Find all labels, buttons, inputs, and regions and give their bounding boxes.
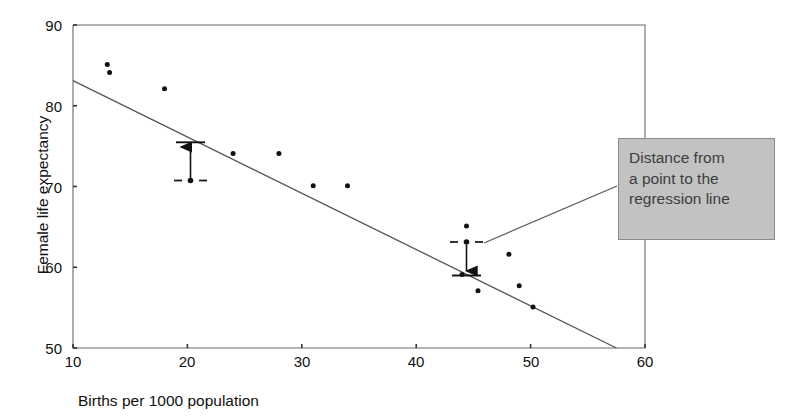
data-point — [476, 288, 481, 293]
x-axis-title: Births per 1000 population — [78, 392, 259, 410]
x-tick-label-10: 10 — [53, 353, 93, 370]
data-point — [464, 224, 469, 229]
data-point — [531, 304, 536, 309]
data-point — [517, 283, 522, 288]
y-axis-title: Female life expectancy — [34, 80, 52, 310]
data-point — [506, 252, 511, 257]
callout-leader-line — [484, 186, 617, 243]
x-tick-label-30: 30 — [282, 353, 322, 370]
data-point — [162, 86, 167, 91]
data-points — [105, 62, 536, 309]
x-tick-label-60: 60 — [625, 353, 665, 370]
plot-frame — [73, 25, 645, 348]
y-tick-label-90: 90 — [28, 17, 62, 34]
residual-arrow-down-group — [450, 239, 483, 275]
chart-canvas: 90 80 70 60 50 10 20 30 40 50 60 Female … — [0, 0, 785, 419]
callout-text: Distance from a point to the regression … — [629, 148, 774, 210]
callout-box: Distance from a point to the regression … — [618, 138, 775, 240]
x-tick-label-40: 40 — [396, 353, 436, 370]
x-tick-label-20: 20 — [167, 353, 207, 370]
data-point — [345, 183, 350, 188]
data-point — [276, 151, 281, 156]
x-axis-ticks — [73, 344, 645, 348]
x-tick-label-50: 50 — [511, 353, 551, 370]
data-point — [231, 151, 236, 156]
data-point — [105, 62, 110, 67]
residual-arrow-up-group — [174, 142, 207, 183]
data-point — [107, 70, 112, 75]
data-point — [311, 183, 316, 188]
y-axis-ticks — [73, 25, 77, 348]
